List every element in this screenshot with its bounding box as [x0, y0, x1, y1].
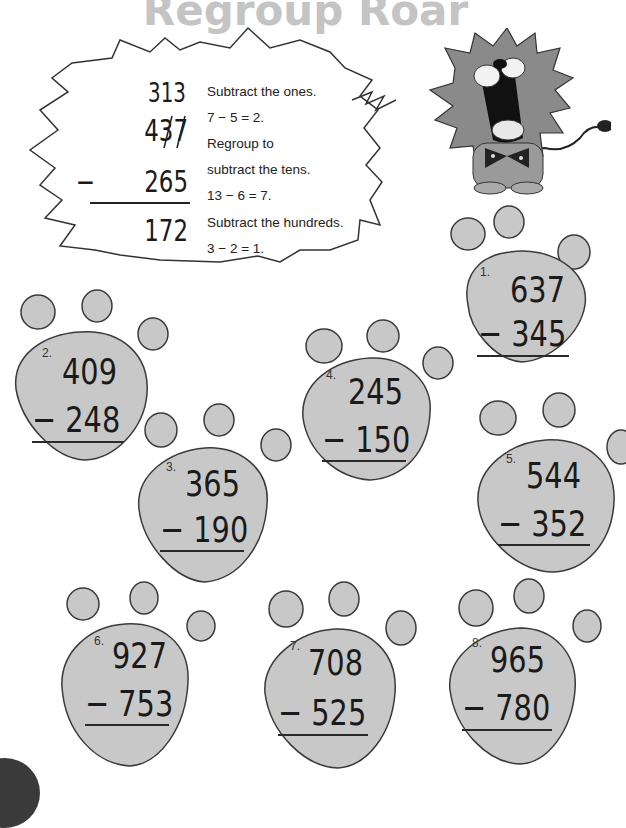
paw-print-icon	[60, 582, 220, 772]
problem-1-answer-line	[477, 355, 569, 357]
step-6: Subtract the hundreds.	[207, 215, 344, 230]
problem-4-label: 4.	[326, 368, 336, 382]
paw-print-icon	[260, 583, 430, 783]
problem-8-top: 965	[490, 642, 545, 678]
step-4: subtract the tens.	[207, 162, 311, 177]
step-1: Subtract the ones.	[207, 84, 317, 99]
example-operator: −	[61, 167, 95, 197]
problem-8-label: 8.	[472, 636, 482, 650]
example-answer-line	[90, 202, 190, 204]
problem-2-answer-line	[32, 441, 124, 443]
problem-6-top: 927	[112, 638, 167, 674]
problem-8-answer-line	[462, 729, 552, 731]
problem-1-top: 637	[510, 272, 565, 308]
lion-icon	[415, 28, 611, 198]
problem-8-bottom: − 780	[462, 690, 550, 726]
regroup-marks: 313	[127, 80, 187, 106]
problem-7-answer-line	[278, 734, 368, 736]
problem-3-bottom: − 190	[160, 512, 248, 548]
problem-5-label: 5.	[506, 452, 516, 466]
problem-3-answer-line	[160, 550, 244, 552]
problem-1-label: 1.	[480, 265, 490, 279]
problem-4-bottom: − 150	[322, 422, 410, 458]
page-number-badge	[0, 758, 40, 828]
problem-7-top: 708	[308, 645, 363, 681]
step-7: 3 − 2 = 1.	[207, 241, 264, 256]
problem-2-top: 409	[62, 354, 117, 390]
paw-print-icon	[440, 580, 610, 780]
problem-7-bottom: − 525	[278, 695, 366, 731]
strike-marks	[150, 112, 190, 152]
problem-1-bottom: − 345	[478, 316, 566, 352]
problem-7-label: 7.	[290, 639, 300, 653]
problem-2-bottom: − 248	[32, 402, 120, 438]
problem-3-top: 365	[185, 466, 240, 502]
problem-5-top: 544	[526, 458, 581, 494]
problem-2-label: 2.	[42, 346, 52, 360]
problem-3-label: 3.	[166, 460, 176, 474]
step-2: 7 − 5 = 2.	[207, 110, 264, 125]
problem-4-top: 245	[348, 374, 403, 410]
example-bottom-number: 265	[129, 167, 189, 197]
example-answer: 172	[129, 216, 189, 246]
step-5: 13 − 6 = 7.	[207, 188, 272, 203]
problem-5-bottom: − 352	[498, 506, 586, 542]
paw-print-icon	[298, 318, 468, 508]
problem-5-answer-line	[498, 544, 590, 546]
problem-6-label: 6.	[94, 634, 104, 648]
problem-4-answer-line	[322, 460, 406, 462]
problem-6-answer-line	[85, 724, 169, 726]
problem-6-bottom: − 753	[85, 686, 173, 722]
step-3: Regroup to	[207, 136, 274, 151]
